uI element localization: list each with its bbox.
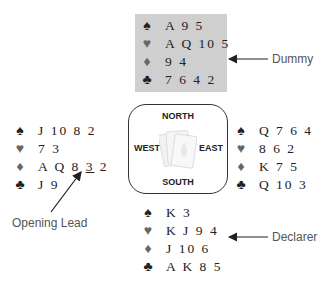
diamond-icon: ♦ (12, 160, 30, 174)
south-hand-declarer: ♠K 3 ♥K J 9 4 ♦J 10 6 ♣A K 8 5 (140, 204, 222, 276)
south-hearts-row: ♥K J 9 4 (140, 222, 222, 240)
diamond-icon: ♦ (233, 160, 251, 174)
west-spades: J 10 8 2 (38, 123, 96, 139)
south-hearts: K J 9 4 (166, 223, 219, 239)
east-clubs: Q 10 3 (259, 177, 308, 193)
club-icon: ♣ (12, 178, 30, 192)
compass-north: NORTH (129, 111, 227, 121)
west-diamonds: A Q 8 3 2 (38, 159, 109, 175)
diamond-icon: ♦ (140, 242, 158, 256)
declarer-label: Declarer (272, 230, 317, 244)
south-clubs-row: ♣A K 8 5 (140, 258, 222, 276)
heart-icon: ♥ (233, 142, 251, 156)
west-diamonds-row: ♦A Q 8 3 2 (12, 158, 109, 176)
west-hearts-row: ♥7 3 (12, 140, 109, 158)
east-diamonds: K 7 5 (259, 159, 299, 175)
east-hearts: 8 6 2 (259, 141, 296, 157)
west-hand: ♠J 10 8 2 ♥7 3 ♦A Q 8 3 2 ♣J 9 (12, 122, 109, 194)
east-clubs-row: ♣Q 10 3 (233, 176, 313, 194)
west-spades-row: ♠J 10 8 2 (12, 122, 109, 140)
east-hearts-row: ♥8 6 2 (233, 140, 313, 158)
compass-south: SOUTH (129, 177, 227, 187)
west-clubs-row: ♣J 9 (12, 176, 109, 194)
west-hearts: 7 3 (38, 141, 61, 157)
heart-icon: ♥ (12, 142, 30, 156)
east-spades: Q 7 6 4 (259, 123, 313, 139)
east-hand: ♠Q 7 6 4 ♥8 6 2 ♦K 7 5 ♣Q 10 3 (233, 122, 313, 194)
south-diamonds: J 10 6 (166, 241, 210, 257)
club-icon: ♣ (233, 178, 251, 192)
spade-icon: ♠ (12, 124, 30, 138)
spade-icon: ♠ (140, 206, 158, 220)
west-clubs: J 9 (38, 177, 59, 193)
opening-lead-label: Opening Lead (12, 216, 87, 230)
playing-cards-icon (159, 127, 197, 173)
compass-east: EAST (199, 143, 223, 153)
south-clubs: A K 8 5 (166, 259, 222, 275)
south-spades-row: ♠K 3 (140, 204, 222, 222)
compass-west: WEST (134, 143, 160, 153)
west-diamonds-post: 2 (94, 159, 108, 174)
compass-table: NORTH WEST EAST SOUTH (128, 104, 228, 194)
club-icon: ♣ (140, 260, 158, 274)
east-diamonds-row: ♦K 7 5 (233, 158, 313, 176)
heart-icon: ♥ (140, 224, 158, 238)
south-spades: K 3 (166, 205, 192, 221)
west-diamonds-pre: A Q 8 (38, 159, 86, 174)
south-diamonds-row: ♦J 10 6 (140, 240, 222, 258)
spade-icon: ♠ (233, 124, 251, 138)
east-spades-row: ♠Q 7 6 4 (233, 122, 313, 140)
dummy-label: Dummy (272, 52, 313, 66)
